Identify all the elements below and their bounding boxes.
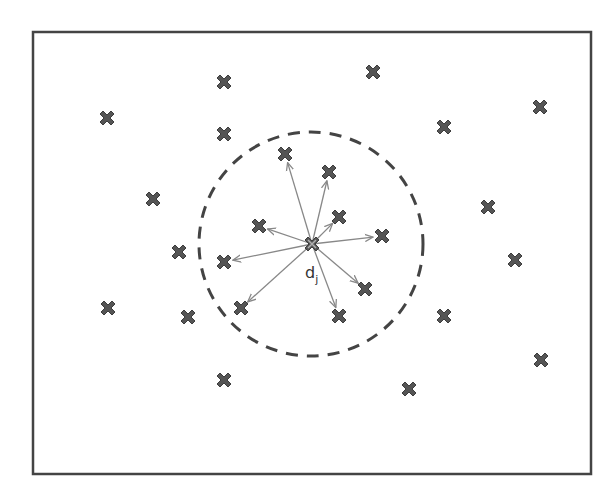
x-marker-icon xyxy=(101,301,115,315)
x-marker-icon xyxy=(481,200,495,214)
x-marker-icon xyxy=(332,210,346,224)
x-marker-icon xyxy=(508,253,522,267)
x-marker-icon xyxy=(146,192,160,206)
x-marker-icon xyxy=(534,353,548,367)
neighbor-arrows xyxy=(233,163,373,308)
x-marker-icon xyxy=(375,229,389,243)
x-marker-icon xyxy=(217,255,231,269)
neighbor-arrow xyxy=(312,237,373,244)
x-marker-icon xyxy=(217,373,231,387)
neighbor-arrow xyxy=(268,229,312,244)
x-marker-icon xyxy=(437,120,451,134)
x-marker-icon xyxy=(402,382,416,396)
neighborhood-diagram: dj xyxy=(0,0,616,498)
other-points xyxy=(100,65,548,396)
center-label: dj xyxy=(305,263,318,286)
neighbor-arrow xyxy=(248,244,312,302)
x-marker-icon xyxy=(278,147,292,161)
x-marker-icon xyxy=(100,111,114,125)
x-marker-icon xyxy=(322,165,336,179)
diagram-frame xyxy=(33,32,591,474)
x-marker-icon xyxy=(172,245,186,259)
x-marker-icon xyxy=(533,100,547,114)
neighbor-arrow xyxy=(312,181,327,244)
x-marker-icon xyxy=(437,309,451,323)
x-marker-icon xyxy=(252,219,266,233)
neighbor-arrow xyxy=(288,163,312,244)
neighbor-points xyxy=(217,147,389,323)
x-marker-icon xyxy=(181,310,195,324)
x-marker-icon xyxy=(217,75,231,89)
x-marker-icon xyxy=(234,301,248,315)
x-marker-icon xyxy=(366,65,380,79)
x-marker-icon xyxy=(358,282,372,296)
neighbor-arrow xyxy=(233,244,312,260)
x-marker-icon xyxy=(332,309,346,323)
x-marker-icon xyxy=(217,127,231,141)
